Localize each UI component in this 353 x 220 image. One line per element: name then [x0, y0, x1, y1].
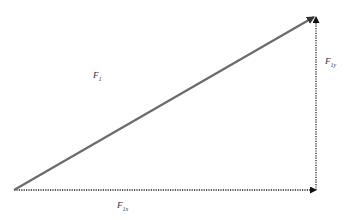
vector-diagram — [0, 0, 353, 220]
f1y-label-sub: 1y — [331, 62, 337, 68]
f1y-label: F1y — [325, 56, 336, 68]
f1-resultant-arrow — [14, 17, 314, 190]
f1-label-sub: 1 — [99, 76, 102, 82]
f1-label: F1 — [93, 70, 102, 82]
f1x-label-sub: 1x — [123, 206, 129, 212]
f1x-label: F1x — [117, 200, 128, 212]
